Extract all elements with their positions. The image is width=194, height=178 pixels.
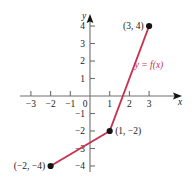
x-tick-label: 2: [127, 99, 132, 109]
x-axis: x: [20, 93, 183, 107]
data-point: [107, 128, 113, 134]
origin-label: 0: [83, 99, 88, 109]
y-tick-label: 1: [80, 74, 85, 84]
y-tick-label: −4: [75, 161, 85, 171]
x-tick-label: −1: [65, 99, 75, 109]
data-point: [146, 23, 152, 29]
data-point: [48, 163, 54, 169]
x-axis-label: x: [177, 97, 183, 107]
x-tick-label: 1: [107, 99, 112, 109]
y-axis-label: y: [81, 11, 87, 21]
y-tick-label: 4: [80, 21, 85, 31]
y-tick-label: −2: [75, 126, 85, 136]
graph-figure: x y −3−2−1123 4321−1−2−3−4 0 (3, 4)(1, −…: [0, 0, 194, 178]
coordinate-plane: x y −3−2−1123 4321−1−2−3−4 0 (3, 4)(1, −…: [0, 0, 194, 178]
data-point-label: (1, −2): [115, 126, 141, 137]
function-label: y = f(x): [134, 60, 164, 71]
x-tick-label: −3: [26, 99, 36, 109]
x-tick-label: 3: [147, 99, 152, 109]
y-tick-label: 3: [80, 39, 85, 49]
y-tick-label: −1: [75, 109, 85, 119]
x-tick-group: −3−2−1123: [26, 91, 152, 109]
y-tick-label: 2: [80, 56, 85, 66]
data-point-label: (3, 4): [123, 21, 144, 32]
data-point-label: (−2, −4): [14, 161, 45, 172]
x-tick-label: −2: [46, 99, 56, 109]
